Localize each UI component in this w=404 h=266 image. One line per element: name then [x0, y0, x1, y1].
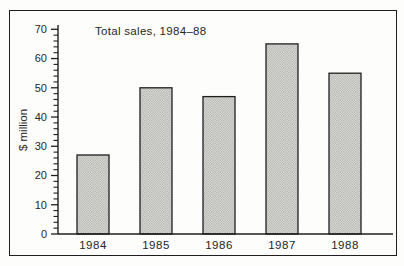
y-tick-label: 20 [35, 169, 47, 181]
x-category-label: 1985 [142, 239, 170, 251]
x-category-label: 1984 [79, 239, 107, 251]
y-tick-label: 10 [35, 199, 47, 211]
y-tick-label: 50 [35, 82, 47, 94]
bar-1986 [203, 97, 235, 234]
chart-title: Total sales, 1984–88 [95, 25, 207, 37]
x-category-label: 1987 [268, 239, 296, 251]
y-tick-label: 0 [41, 228, 47, 240]
bar-1987 [266, 44, 298, 234]
bar-1984 [77, 155, 109, 234]
y-axis-title: $ million [17, 95, 29, 165]
chart-svg: 01020304050607019841985198619871988 [0, 0, 404, 266]
y-tick-label: 60 [35, 52, 47, 64]
chart-root: 01020304050607019841985198619871988 [35, 23, 393, 251]
x-category-label: 1988 [331, 239, 359, 251]
y-tick-label: 40 [35, 111, 47, 123]
y-tick-label: 30 [35, 140, 47, 152]
bar-1985 [140, 88, 172, 234]
x-category-label: 1986 [205, 239, 233, 251]
y-tick-label: 70 [35, 23, 47, 35]
bar-1988 [329, 73, 361, 234]
figure: 01020304050607019841985198619871988 Tota… [0, 0, 404, 266]
